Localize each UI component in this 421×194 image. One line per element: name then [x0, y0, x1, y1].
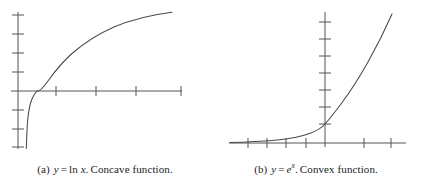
caption-a-period: .: [86, 163, 89, 175]
caption-a-text: Concave function.: [90, 163, 172, 175]
caption-b-period: .: [295, 163, 298, 175]
caption-a-label: (a): [37, 163, 50, 175]
figure-panel-a: (a)y=ln x.Concave function.: [0, 0, 210, 194]
plot-a: [0, 0, 210, 160]
caption-a-equals: =: [61, 163, 67, 175]
caption-a-var: y: [54, 163, 59, 175]
figure-panel-b: (b)y=ex.Convex function.: [211, 0, 421, 194]
caption-b-label: (b): [254, 163, 267, 175]
figure-container: (a)y=ln x.Concave function.: [0, 0, 421, 194]
plot-a-curve-ln-x: [26, 12, 172, 148]
caption-b-equals: =: [278, 163, 284, 175]
plot-b-curve-exp-x: [230, 14, 392, 143]
caption-a: (a)y=ln x.Concave function.: [0, 162, 210, 176]
caption-b-text: Convex function.: [300, 163, 378, 175]
caption-a-expr-op: ln: [69, 163, 78, 175]
plot-b-svg: [211, 0, 421, 160]
plot-b: [211, 0, 421, 160]
plot-a-svg: [0, 0, 210, 160]
caption-b-var: y: [271, 163, 276, 175]
caption-b: (b)y=ex.Convex function.: [211, 162, 421, 176]
